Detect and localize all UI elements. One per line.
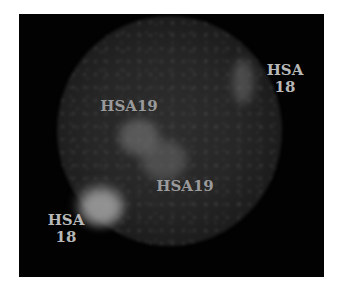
label-hsa18-bottom-left: HSA 18 (46, 212, 86, 246)
label-hsa19-upper: HSA19 (99, 98, 159, 115)
label-hsa18-top-right: HSA 18 (265, 62, 305, 96)
hsa18-signal-top-right (232, 59, 254, 104)
label-hsa19-lower: HSA19 (155, 178, 215, 195)
hsa19-signal-center-lower (141, 140, 187, 180)
micrograph-frame: HSA 18 HSA19 HSA19 HSA 18 (19, 14, 324, 277)
